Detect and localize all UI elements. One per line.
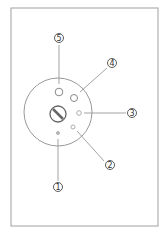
callout-4: 4 xyxy=(108,59,117,68)
svg-text:3: 3 xyxy=(129,109,134,118)
svg-text:2: 2 xyxy=(107,161,112,170)
svg-text:5: 5 xyxy=(56,34,61,43)
hole-2 xyxy=(71,125,75,129)
faceplate-diagram: 5 4 3 2 1 xyxy=(0,0,160,234)
hole-1 xyxy=(56,131,59,134)
callout-1: 1 xyxy=(54,183,63,192)
svg-text:4: 4 xyxy=(109,59,114,68)
callout-2: 2 xyxy=(106,161,115,170)
hole-5 xyxy=(55,88,63,96)
hole-4 xyxy=(71,95,78,102)
callout-3: 3 xyxy=(128,109,137,118)
screw-icon xyxy=(50,106,66,122)
callout-5: 5 xyxy=(55,34,64,43)
svg-text:1: 1 xyxy=(55,183,60,192)
hole-3 xyxy=(77,111,82,116)
frame xyxy=(11,8,158,226)
